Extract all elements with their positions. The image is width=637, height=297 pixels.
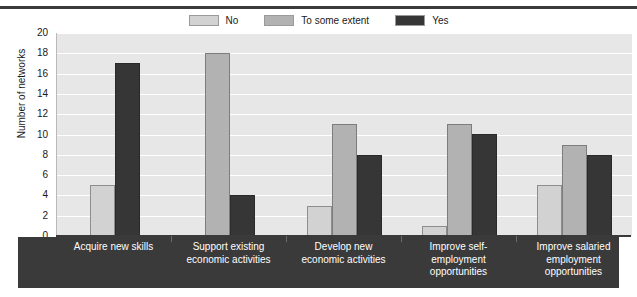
category-label-line: employment xyxy=(401,254,516,267)
legend-swatch-icon xyxy=(189,15,219,26)
y-tick-label: 12 xyxy=(8,109,48,119)
category-label-line: employment xyxy=(516,254,631,267)
x-axis-category-label: Acquire new skills xyxy=(56,241,171,254)
legend-swatch-icon xyxy=(264,15,294,26)
category-label-line: Improve self- xyxy=(401,241,516,254)
bar-group xyxy=(402,33,517,236)
y-tick-label: 2 xyxy=(8,211,48,221)
category-label-band: Acquire new skillsSupport existingeconom… xyxy=(18,237,619,288)
legend-item-label: Yes xyxy=(432,15,448,26)
bar-group xyxy=(172,33,287,236)
y-tick-label: 14 xyxy=(8,89,48,99)
y-tick-label: 4 xyxy=(8,190,48,200)
bar[interactable] xyxy=(90,185,115,236)
legend-item[interactable]: Yes xyxy=(395,15,448,26)
y-tick-label: 10 xyxy=(8,130,48,140)
category-label-line: opportunities xyxy=(516,266,631,279)
x-axis-category-label: Develop neweconomic activities xyxy=(286,241,401,266)
x-axis-category-label: Support existingeconomic activities xyxy=(171,241,286,266)
y-tick-label: 8 xyxy=(8,150,48,160)
bar[interactable] xyxy=(447,124,472,236)
y-tick-label: 16 xyxy=(8,69,48,79)
bar[interactable] xyxy=(307,206,332,236)
x-axis-category-label: Improve salariedemploymentopportunities xyxy=(516,241,631,279)
y-tick-label: 20 xyxy=(8,28,48,38)
legend-item[interactable]: No xyxy=(189,15,239,26)
legend-swatch-icon xyxy=(395,15,425,26)
top-divider-rule xyxy=(0,6,637,9)
category-label-line: economic activities xyxy=(286,254,401,267)
category-label-line: opportunities xyxy=(401,266,516,279)
bar[interactable] xyxy=(115,63,140,236)
y-tick-label: 18 xyxy=(8,48,48,58)
x-axis-tick xyxy=(286,236,287,242)
bar[interactable] xyxy=(332,124,357,236)
chart-legend: NoTo some extentYes xyxy=(0,12,637,28)
x-axis-tick xyxy=(171,236,172,242)
x-axis-tick xyxy=(401,236,402,242)
legend-item-label: No xyxy=(226,15,239,26)
plot-area: 20181614121086420 xyxy=(56,33,632,236)
bar[interactable] xyxy=(587,155,612,236)
bar[interactable] xyxy=(562,145,587,236)
bar-chart-figure: NoTo some extentYes Number of networks 2… xyxy=(0,0,637,297)
bar-group xyxy=(517,33,632,236)
bar[interactable] xyxy=(205,53,230,236)
category-label-line: Support existing xyxy=(171,241,286,254)
bar-group xyxy=(57,33,172,236)
category-label-line: Develop new xyxy=(286,241,401,254)
category-label-line: economic activities xyxy=(171,254,286,267)
y-tick-label: 6 xyxy=(8,170,48,180)
x-axis-category-label: Improve self-employmentopportunities xyxy=(401,241,516,279)
category-label-line: Acquire new skills xyxy=(56,241,171,254)
bar[interactable] xyxy=(230,195,255,236)
bar-group xyxy=(287,33,402,236)
bar[interactable] xyxy=(537,185,562,236)
x-axis-tick xyxy=(516,236,517,242)
category-label-line: Improve salaried xyxy=(516,241,631,254)
legend-item[interactable]: To some extent xyxy=(264,15,369,26)
bar[interactable] xyxy=(472,134,497,236)
legend-item-label: To some extent xyxy=(301,15,369,26)
bar[interactable] xyxy=(357,155,382,236)
